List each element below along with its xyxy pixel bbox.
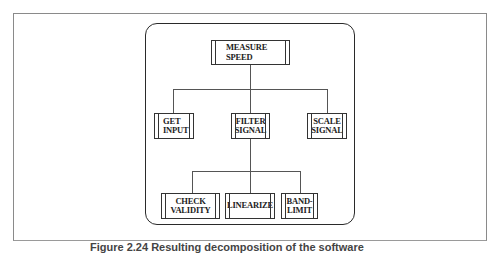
connector-filter-down xyxy=(250,139,251,193)
node-label: GET INPUT xyxy=(163,117,188,136)
figure-caption: Figure 2.24 Resulting decomposition of t… xyxy=(90,240,420,254)
node-label: SCALE SIGNAL xyxy=(311,117,342,136)
node-label: FILTER SIGNAL xyxy=(235,117,266,136)
node-measure-speed: MEASURE SPEED xyxy=(211,40,290,65)
connector-filter-signal xyxy=(250,89,251,113)
connector-check-validity xyxy=(192,171,193,193)
node-label: LINEARIZE xyxy=(227,201,273,211)
node-label: CHECK VALIDITY xyxy=(171,197,211,216)
connector-scale-signal xyxy=(327,89,328,113)
connector-level2-bus xyxy=(192,171,300,172)
node-label: MEASURE SPEED xyxy=(226,43,267,62)
node-filter-signal: FILTER SIGNAL xyxy=(231,113,270,139)
node-scale-signal: SCALE SIGNAL xyxy=(307,113,347,139)
node-check-validity: CHECK VALIDITY xyxy=(161,193,220,219)
node-get-input: GET INPUT xyxy=(154,113,194,139)
node-label: BAND- LIMIT xyxy=(287,197,313,216)
connector-band-limit xyxy=(300,171,301,193)
node-linearize: LINEARIZE xyxy=(225,193,275,219)
node-band-limit: BAND- LIMIT xyxy=(281,193,318,219)
connector-get-input xyxy=(173,89,174,113)
connector-root-down xyxy=(250,65,251,89)
